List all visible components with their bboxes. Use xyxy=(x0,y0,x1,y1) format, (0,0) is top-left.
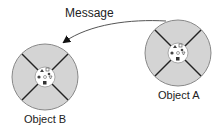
object-b-label: Object B xyxy=(24,113,66,125)
object-b xyxy=(12,44,78,110)
object-a xyxy=(145,20,211,86)
message-label: Message xyxy=(65,6,114,20)
object-a-label: Object A xyxy=(158,89,200,101)
